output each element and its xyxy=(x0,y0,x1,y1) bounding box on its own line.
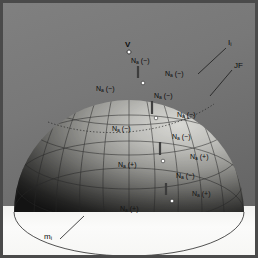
data-marker-1 xyxy=(141,81,145,85)
node-sign: (+) xyxy=(128,205,139,212)
callout-label-JF: JF xyxy=(234,62,243,70)
callout-label-m: mi xyxy=(44,233,52,241)
node-sign: (−) xyxy=(120,125,131,132)
slip-tick-2 xyxy=(159,142,161,155)
node-label-n6: Na (−) xyxy=(112,125,131,133)
node-sign: (−) xyxy=(139,57,150,64)
node-label-n7: Na (−) xyxy=(172,133,191,141)
node-sign: (−) xyxy=(162,92,173,99)
node-label-n12: Na (+) xyxy=(120,205,139,213)
callout-I-sub: i xyxy=(230,41,231,47)
node-label-n5: Na (−) xyxy=(177,111,196,119)
node-label-n1: Na (−) xyxy=(131,57,150,65)
data-marker-0 xyxy=(127,50,131,54)
node-label-n9: Na (+) xyxy=(118,161,137,169)
node-label-n2: Na (−) xyxy=(165,70,184,78)
figure-canvas: V Na (−)Na (−)Na (−)Na (−)Na (−)Na (−)Na… xyxy=(0,0,258,258)
node-label-n3: Na (−) xyxy=(96,85,115,93)
node-sign: (+) xyxy=(198,153,209,160)
node-label-n4: Na (−) xyxy=(154,92,173,100)
data-marker-2 xyxy=(154,116,158,120)
node-sign: (−) xyxy=(173,70,184,77)
data-marker-3 xyxy=(161,159,165,163)
vertex-label: V xyxy=(125,41,130,49)
node-label-n11: Na (+) xyxy=(192,190,211,198)
slip-tick-1 xyxy=(151,101,153,114)
node-sign: (−) xyxy=(104,85,115,92)
node-sign: (+) xyxy=(126,161,137,168)
data-marker-4 xyxy=(170,199,174,203)
callout-label-I: Ii xyxy=(228,39,232,47)
callout-m-text: m xyxy=(44,232,51,241)
node-label-n10: Na (−) xyxy=(176,172,195,180)
slip-tick-3 xyxy=(165,183,167,195)
node-sign: (−) xyxy=(184,172,195,179)
node-sign: (+) xyxy=(200,190,211,197)
node-sign: (−) xyxy=(185,111,196,118)
node-label-n8: Na (+) xyxy=(190,153,209,161)
node-sign: (−) xyxy=(180,133,191,140)
callout-m-sub: i xyxy=(51,235,52,241)
slip-tick-0 xyxy=(137,66,139,78)
